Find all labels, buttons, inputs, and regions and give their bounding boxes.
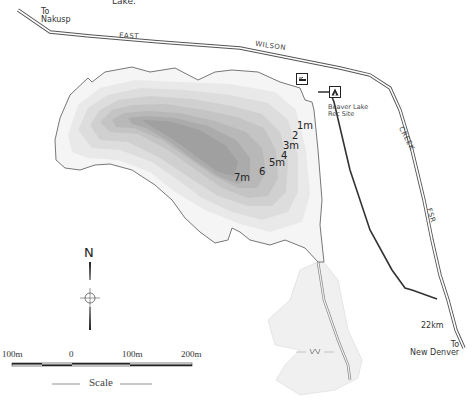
scale-tick-zero: 0 bbox=[69, 350, 74, 359]
depth-label-1m: 1m bbox=[297, 121, 313, 132]
to-new-denver-label: To New Denver bbox=[410, 341, 459, 358]
top-caption: Lake. bbox=[112, 0, 136, 6]
tent-icon bbox=[331, 88, 339, 96]
nakusp-label: Nakusp bbox=[41, 16, 71, 24]
access-trail bbox=[318, 92, 437, 299]
north-arrow bbox=[80, 262, 100, 330]
campsite-icon[interactable] bbox=[329, 86, 341, 98]
new-denver-label: New Denver bbox=[410, 349, 459, 357]
lake-map: Lake. To Nakusp EAST WILSON CREEK FSR 22… bbox=[0, 0, 473, 410]
road-label-east: EAST bbox=[119, 32, 139, 40]
scale-tick-100: 100m bbox=[122, 350, 143, 359]
depth-label-6: 6 bbox=[259, 167, 265, 178]
rec-site-label: Beaver Lake Rec Site bbox=[328, 104, 368, 118]
rec-site-type: Rec Site bbox=[328, 111, 368, 118]
depth-label-5m: 5m bbox=[269, 158, 285, 169]
north-label: N bbox=[84, 246, 94, 260]
wetland-area bbox=[268, 260, 362, 395]
boat-launch-icon[interactable] bbox=[296, 73, 308, 85]
scale-tick-200: 200m bbox=[181, 350, 202, 359]
to-nakusp-label: To Nakusp bbox=[41, 8, 71, 25]
km-marker-label: 22km bbox=[421, 322, 444, 330]
depth-label-7m: 7m bbox=[234, 173, 250, 184]
boat-launch-glyph-icon bbox=[298, 76, 307, 83]
scale-tick-left: 100m bbox=[2, 350, 23, 359]
scale-title: Scale bbox=[89, 377, 113, 389]
